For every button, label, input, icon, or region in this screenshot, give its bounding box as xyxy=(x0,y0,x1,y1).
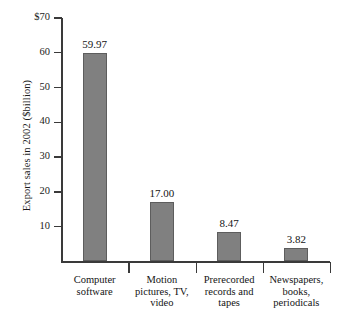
category-label: Motionpictures, TV,video xyxy=(128,274,195,309)
category-label-line: Computer xyxy=(61,274,128,286)
category-label: Newspapers,books,periodicals xyxy=(263,274,330,309)
category-separator-tick xyxy=(196,262,197,273)
bar-value-label: 17.00 xyxy=(132,188,192,199)
category-label-line: pictures, TV, xyxy=(128,286,195,298)
bar-value-label: 3.82 xyxy=(266,234,326,245)
category-label-line: tapes xyxy=(196,297,263,309)
category-label-line: periodicals xyxy=(263,297,330,309)
y-axis-tick-label: 30 xyxy=(6,151,50,162)
y-axis-tick-label: 50 xyxy=(6,82,50,93)
y-axis-tick-label: 60 xyxy=(6,47,50,58)
y-axis-tick xyxy=(54,17,62,18)
y-axis-tick xyxy=(54,87,62,88)
category-label: Prerecordedrecords andtapes xyxy=(196,274,263,309)
bar-value-label: 59.97 xyxy=(65,39,125,50)
y-axis-tick-label: $70 xyxy=(6,12,50,23)
y-axis-tick-label: 40 xyxy=(6,116,50,127)
bar xyxy=(284,248,308,261)
category-label-line: books, xyxy=(263,286,330,298)
y-axis-tick xyxy=(54,191,62,192)
y-axis-tick xyxy=(54,156,62,157)
category-label-line: records and xyxy=(196,286,263,298)
y-axis-tick xyxy=(54,226,62,227)
y-axis-tick-label: 20 xyxy=(6,186,50,197)
category-label: Computersoftware xyxy=(61,274,128,297)
category-separator-tick xyxy=(128,262,129,273)
y-axis-title: Export sales in 2002 ($billion) xyxy=(21,46,32,246)
category-separator-tick xyxy=(263,262,264,273)
bar xyxy=(150,202,174,261)
category-label-line: Motion xyxy=(128,274,195,286)
category-separator-tick xyxy=(330,262,331,273)
y-axis-tick xyxy=(54,52,62,53)
bar xyxy=(217,232,241,261)
bar-chart: Export sales in 2002 ($billion) 10203040… xyxy=(0,0,338,315)
category-label-line: Newspapers, xyxy=(263,274,330,286)
bar-value-label: 8.47 xyxy=(199,218,259,229)
y-axis-tick-label: 10 xyxy=(6,221,50,232)
y-axis-tick xyxy=(54,122,62,123)
bar xyxy=(83,53,107,262)
category-label-line: software xyxy=(61,286,128,298)
category-label-line: video xyxy=(128,297,195,309)
category-label-line: Prerecorded xyxy=(196,274,263,286)
